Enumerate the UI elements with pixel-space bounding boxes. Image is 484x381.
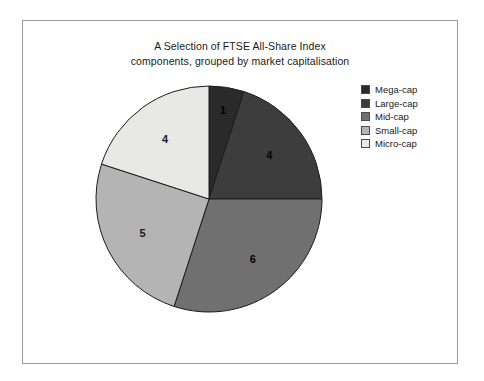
legend-item[interactable]: Large-cap <box>361 97 453 111</box>
legend-item-label: Micro-cap <box>375 138 417 149</box>
pie-chart-svg: 14654 <box>23 21 459 365</box>
pie-slice-group <box>96 86 322 312</box>
legend-item-label: Large-cap <box>375 98 418 109</box>
legend-item-label: Mid-cap <box>375 111 409 122</box>
chart-figure-frame: A Selection of FTSE All-Share Index comp… <box>22 20 458 364</box>
pie-slice-value-label: 4 <box>266 149 273 161</box>
pie-slice-value-label: 6 <box>250 253 256 265</box>
legend-item[interactable]: Micro-cap <box>361 137 453 151</box>
legend-swatch-icon <box>361 99 370 108</box>
pie-slice-value-label: 4 <box>162 133 169 145</box>
legend-item-label: Small-cap <box>375 125 417 136</box>
pie-slice-value-label: 1 <box>220 104 226 116</box>
pie-slice-value-label: 5 <box>139 227 145 239</box>
legend-item[interactable]: Mega-cap <box>361 83 453 97</box>
legend-swatch-icon <box>361 85 370 94</box>
pie-chart-plot-area: 14654 <box>23 21 459 365</box>
legend-item[interactable]: Mid-cap <box>361 110 453 124</box>
legend-item[interactable]: Small-cap <box>361 124 453 138</box>
legend-swatch-icon <box>361 112 370 121</box>
legend-swatch-icon <box>361 139 370 148</box>
legend-swatch-icon <box>361 126 370 135</box>
chart-legend: Mega-capLarge-capMid-capSmall-capMicro-c… <box>361 83 453 151</box>
legend-item-label: Mega-cap <box>375 84 417 95</box>
